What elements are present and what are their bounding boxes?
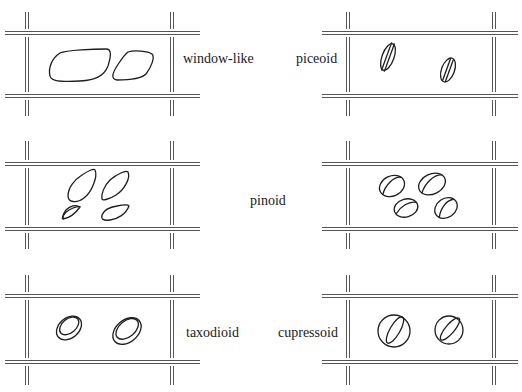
window-pit [49, 49, 110, 81]
pinoid-pit [102, 205, 129, 220]
label-piceoid: piceoid [296, 51, 337, 66]
pinoid-bordered-pit [415, 169, 449, 199]
panel-taxodioid: taxodioid [5, 275, 239, 385]
label-taxodioid: taxodioid [186, 325, 239, 340]
taxodioid-pit [52, 311, 86, 344]
cupressoid-pit [378, 315, 410, 347]
cupressoid-pit [435, 315, 463, 344]
panel-piceoid: piceoid [296, 12, 518, 116]
panel-pinoid-left [5, 141, 200, 249]
panel-pinoid-right [322, 141, 518, 249]
pinoid-pit [62, 207, 80, 219]
pinoid-bordered-pit [392, 196, 420, 220]
pinoid-pit [102, 171, 129, 199]
cell-walls [5, 12, 200, 116]
label-pinoid: pinoid [250, 193, 286, 208]
pinoid-pit [68, 169, 96, 201]
taxodioid-pit [108, 312, 147, 349]
pits [378, 315, 463, 347]
pits [62, 169, 129, 220]
window-pit [113, 51, 153, 80]
piceoid-pit [377, 41, 399, 73]
pits [376, 169, 461, 223]
cell-walls [322, 275, 518, 385]
pits [52, 311, 146, 349]
label-cupressoid: cupressoid [278, 325, 338, 340]
panel-cupressoid: cupressoid [278, 275, 518, 385]
piceoid-pit [438, 56, 459, 84]
label-window-like: window-like [183, 51, 254, 66]
cross-field-pitting-diagram: window-like [0, 0, 522, 392]
pits [49, 49, 153, 81]
pinoid-bordered-pit [376, 171, 408, 200]
pinoid-bordered-pit [431, 193, 462, 222]
cell-walls [5, 275, 200, 385]
cell-walls [322, 141, 518, 249]
panel-window-like: window-like [5, 12, 254, 116]
pits [377, 41, 458, 84]
cell-walls [322, 12, 518, 116]
